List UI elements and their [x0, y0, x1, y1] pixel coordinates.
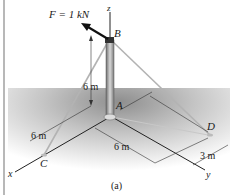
pole-AB — [106, 40, 114, 115]
dim-label-x-to-C: 6 m — [31, 130, 47, 141]
point-label-A: A — [115, 99, 123, 111]
dim-label-height: 6 m — [83, 81, 99, 92]
point-label-D: D — [206, 120, 215, 132]
axis-label-x: x — [7, 168, 13, 179]
axis-label-z: z — [106, 3, 111, 13]
axis-label-y: y — [205, 169, 211, 180]
anchor-D — [207, 133, 213, 136]
statics-diagram: F = 1 kN B z 6 m A 6 m 6 m 3 m D C x y (… — [0, 0, 235, 195]
figure-caption: (a) — [111, 180, 122, 192]
dimension-arrow-up — [89, 35, 93, 41]
pole-base-A — [104, 114, 116, 120]
point-label-C: C — [40, 157, 48, 169]
dim-label-y-to-D: 6 m — [114, 141, 130, 152]
diagram-frame: F = 1 kN B z 6 m A 6 m 6 m 3 m D C x y (… — [0, 0, 235, 195]
point-label-B: B — [114, 27, 121, 39]
dim-label-offset-D: 3 m — [200, 150, 216, 161]
force-label: F = 1 kN — [48, 8, 90, 20]
